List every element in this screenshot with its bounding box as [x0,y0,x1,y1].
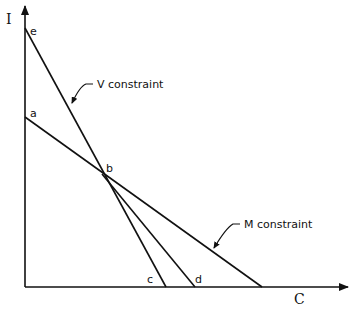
m-constraint-label: M constraint [244,218,313,231]
v-constraint-line [25,28,166,287]
point-e-label: e [30,25,37,38]
y-axis-label: I [6,11,12,27]
v-constraint-leader-icon [72,84,93,103]
point-c-label: c [147,273,153,286]
b-to-d-line [102,174,195,287]
constraint-diagram: I C e a b c d V constraint M constraint [0,0,357,310]
v-constraint-label: V constraint [97,78,164,91]
point-a-label: a [30,107,37,120]
x-axis-label: C [294,291,305,307]
point-b-label: b [106,162,113,175]
point-d-label: d [195,273,202,286]
m-constraint-line [25,117,262,287]
m-constraint-leader-icon [214,224,240,248]
